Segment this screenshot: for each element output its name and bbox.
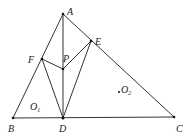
point-f xyxy=(41,58,44,61)
point-b xyxy=(12,117,15,120)
label-c: C xyxy=(176,123,183,134)
label-o2: O2 xyxy=(121,84,131,96)
segment-bc xyxy=(13,117,174,118)
label-o1: O1 xyxy=(30,101,40,113)
point-c xyxy=(173,116,176,119)
point-o2 xyxy=(118,91,120,93)
label-e: E xyxy=(94,36,101,47)
label-b: B xyxy=(8,123,14,134)
geometry-diagram: A E F P B D C O1 O2 xyxy=(0,0,189,140)
segment-ab xyxy=(13,14,63,118)
label-d: D xyxy=(58,123,67,134)
point-d xyxy=(62,117,65,120)
point-p xyxy=(62,68,65,71)
label-p: P xyxy=(62,53,69,64)
point-a xyxy=(62,13,65,16)
label-a: A xyxy=(66,6,74,17)
point-e xyxy=(90,40,93,43)
segment-ca xyxy=(63,14,174,117)
label-f: F xyxy=(27,54,35,65)
